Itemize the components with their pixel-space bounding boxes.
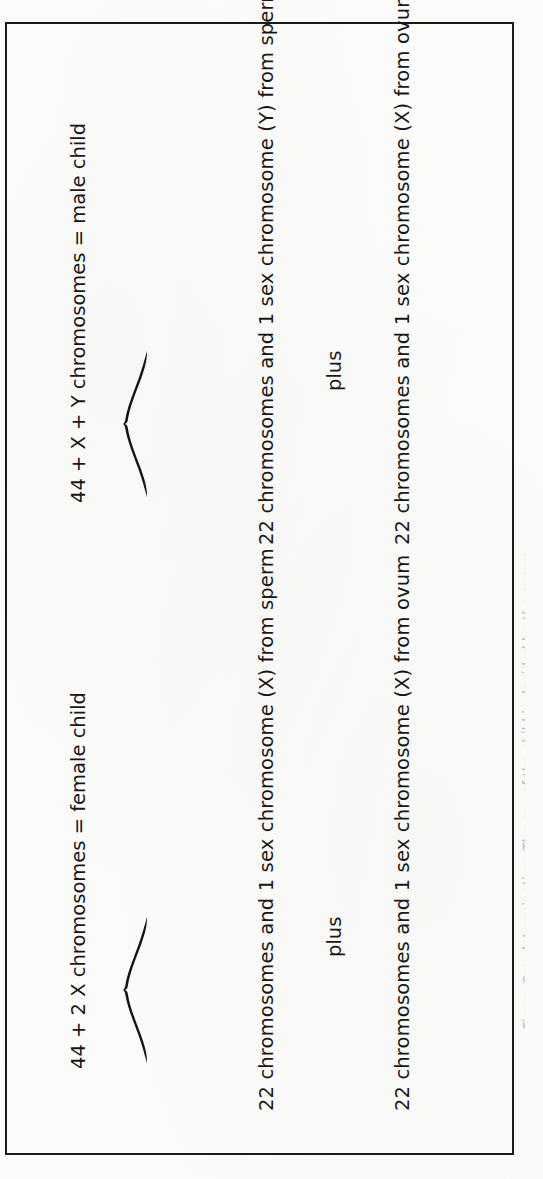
result-line-male: 44 + X + Y chromosomes = male child: [67, 123, 90, 503]
result-line-female: 44 + 2 X chromosomes = female child: [67, 692, 90, 1069]
plus-connector: plus: [323, 351, 346, 391]
inheritance-group-female: 22 chromosomes and 1 sex chromosome (X) …: [5, 589, 514, 1155]
sperm-gamete-line: 22 chromosomes and 1 sex chromosome (X) …: [255, 548, 278, 1111]
brace-up-icon: [123, 915, 149, 1065]
rotated-figure-content: 22 chromosomes and 1 sex chromosome (X) …: [5, 22, 514, 1155]
figure-caption: Figure Sex determination. The sex of the…: [520, 0, 543, 1179]
inheritance-group-male: 22 chromosomes and 1 sex chromosome (X) …: [5, 22, 514, 589]
plus-connector: plus: [323, 917, 346, 957]
sperm-gamete-line: 22 chromosomes and 1 sex chromosome (Y) …: [255, 0, 278, 545]
cut-off-caption-strip: Figure Sex determination. The sex of the…: [520, 0, 543, 1179]
ovum-gamete-line: 22 chromosomes and 1 sex chromosome (X) …: [391, 555, 414, 1111]
brace-up-icon: [123, 349, 149, 499]
ovum-gamete-line: 22 chromosomes and 1 sex chromosome (X) …: [391, 0, 414, 545]
